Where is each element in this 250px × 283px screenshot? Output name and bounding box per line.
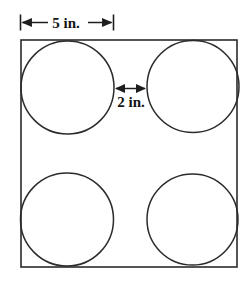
- diagram-background: [0, 0, 250, 283]
- geometry-diagram: 5 in. 2 in.: [0, 0, 250, 283]
- figure-canvas: 5 in. 2 in.: [0, 0, 250, 283]
- gap-dimension-label: 2 in.: [117, 94, 145, 110]
- width-dimension-label: 5 in.: [52, 15, 80, 31]
